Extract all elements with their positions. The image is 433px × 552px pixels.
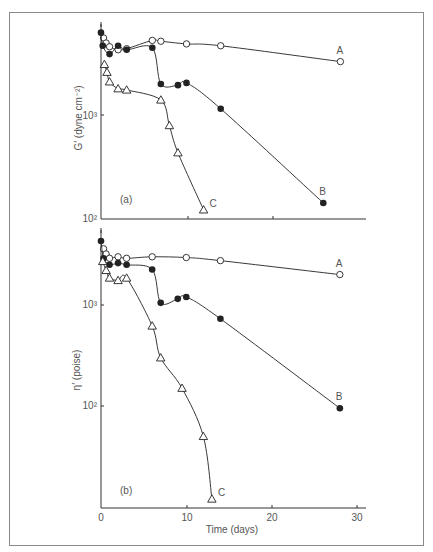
open-circle-marker xyxy=(149,254,155,260)
ylabel-a: G′ (dyne cm⁻²) xyxy=(73,85,84,150)
ytick-a-1e3: 10³ xyxy=(83,110,98,121)
triangle-marker xyxy=(114,85,122,92)
series-a: A xyxy=(100,246,343,278)
series-b: B xyxy=(98,29,327,206)
series-label-c: C xyxy=(210,198,217,209)
filled-circle-marker xyxy=(183,294,190,301)
filled-circle-marker xyxy=(158,81,165,88)
xtick-20: 20 xyxy=(266,512,278,523)
filled-circle-marker xyxy=(98,238,105,245)
ylabel-b: η′ (poise) xyxy=(71,350,82,391)
series-line xyxy=(104,38,341,62)
open-circle-marker xyxy=(115,254,121,260)
filled-circle-marker xyxy=(115,42,122,49)
series-label-a: A xyxy=(336,45,343,56)
open-circle-marker xyxy=(106,255,112,261)
triangle-marker xyxy=(199,432,207,439)
triangle-marker xyxy=(174,149,182,156)
chart-figure: 10³ 10² G′ (dyne cm⁻²) (a) ABC 10³ 10² 0… xyxy=(0,0,433,552)
series-line xyxy=(101,241,340,408)
panel-label-b: (b) xyxy=(120,485,132,496)
series-label-c: C xyxy=(218,487,225,498)
open-circle-marker xyxy=(158,38,164,44)
series-c: C xyxy=(99,257,226,502)
open-circle-marker xyxy=(149,37,155,43)
filled-circle-marker xyxy=(217,105,224,112)
panel-a: 10³ 10² G′ (dyne cm⁻²) (a) ABC xyxy=(73,22,366,224)
ytick-b-1e2: 10² xyxy=(83,400,98,411)
xtick-10: 10 xyxy=(181,512,193,523)
filled-circle-marker xyxy=(175,82,182,89)
ytick-b-1e3: 10³ xyxy=(83,299,98,310)
open-circle-marker xyxy=(123,255,129,261)
panel-b: 10³ 10² 0 10 20 30 Time (days) η′ (poise… xyxy=(71,228,366,535)
triangle-marker xyxy=(105,78,113,85)
series-line xyxy=(101,33,323,203)
filled-circle-marker xyxy=(174,296,181,303)
xlabel: Time (days) xyxy=(206,524,258,535)
series-label-b: B xyxy=(336,391,343,402)
series-label-b: B xyxy=(319,186,326,197)
triangle-marker xyxy=(165,121,173,128)
filled-circle-marker xyxy=(123,262,130,269)
series-line xyxy=(103,261,212,499)
open-circle-marker xyxy=(183,254,189,260)
triangle-marker xyxy=(157,96,165,103)
triangle-marker xyxy=(178,384,186,391)
series-a: A xyxy=(100,35,343,65)
filled-circle-marker xyxy=(106,51,113,58)
open-circle-marker xyxy=(337,58,343,64)
xtick-30: 30 xyxy=(351,512,363,523)
triangle-marker xyxy=(103,68,111,75)
filled-circle-marker xyxy=(149,266,156,273)
triangle-marker xyxy=(157,354,165,361)
filled-circle-marker xyxy=(115,260,122,267)
triangle-marker xyxy=(208,495,216,502)
series-label-a: A xyxy=(336,258,343,269)
triangle-marker xyxy=(105,274,113,281)
ytick-a-1e2: 10² xyxy=(83,213,98,224)
open-circle-marker xyxy=(106,44,112,50)
triangle-marker xyxy=(199,206,207,213)
triangle-marker xyxy=(148,322,156,329)
filled-circle-marker xyxy=(157,300,164,307)
filled-circle-marker xyxy=(217,316,224,323)
filled-circle-marker xyxy=(320,200,327,207)
filled-circle-marker xyxy=(98,29,105,36)
filled-circle-marker xyxy=(99,42,106,49)
open-circle-marker xyxy=(218,43,224,49)
open-circle-marker xyxy=(337,271,343,277)
filled-circle-marker xyxy=(337,405,344,412)
open-circle-marker xyxy=(217,257,223,263)
figure-border xyxy=(10,13,424,546)
open-circle-marker xyxy=(183,41,189,47)
filled-circle-marker xyxy=(183,80,190,87)
xtick-0: 0 xyxy=(98,512,104,523)
panel-label-a: (a) xyxy=(120,194,132,205)
filled-circle-marker xyxy=(149,44,156,51)
filled-circle-marker xyxy=(123,46,130,53)
